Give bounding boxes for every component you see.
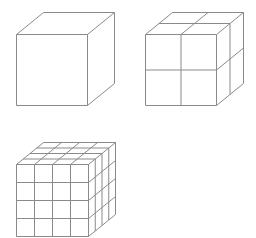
cube-1x1x1	[17, 13, 115, 106]
cube-diagram	[0, 0, 256, 238]
cube-2x2x2	[146, 13, 244, 106]
cube-4x4x4	[17, 143, 116, 237]
